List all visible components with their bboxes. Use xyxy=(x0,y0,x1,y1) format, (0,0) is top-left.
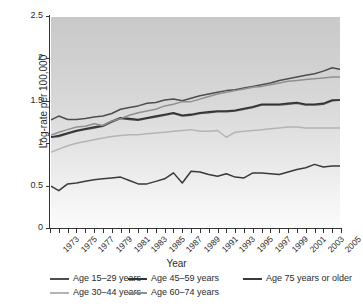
x-tick-label: 1973 xyxy=(61,234,81,254)
series-line xyxy=(50,164,341,190)
y-tick: 1 xyxy=(26,143,50,144)
y-tick: 0 xyxy=(26,228,50,229)
x-tick-label: 1975 xyxy=(78,234,98,254)
y-tick-label: 2 xyxy=(38,52,43,63)
x-tick-mark xyxy=(94,229,95,233)
x-tick-mark xyxy=(209,229,210,233)
legend-item: Age 15–29 years xyxy=(0,272,128,285)
legend-label: Age 45–59 years xyxy=(151,272,219,285)
x-tick-mark xyxy=(341,229,342,233)
legend-item: Age 30–44 years xyxy=(0,286,128,299)
plot-area xyxy=(50,16,341,228)
y-tick-label: 2.5 xyxy=(30,10,43,21)
x-tick-mark xyxy=(156,229,157,233)
x-tick-label: 2001 xyxy=(307,234,327,254)
x-tick-mark xyxy=(129,229,130,233)
x-tick-mark xyxy=(253,229,254,233)
x-tick-label: 1991 xyxy=(219,234,239,254)
y-tick: 2 xyxy=(26,58,50,59)
legend-swatch-icon xyxy=(50,292,69,294)
legend-swatch-icon xyxy=(50,278,69,280)
series-line xyxy=(50,68,341,121)
x-tick-mark xyxy=(315,229,316,233)
x-tick-label: 1993 xyxy=(237,234,257,254)
legend-item: Age 45–59 years xyxy=(128,272,243,285)
y-tick: 1.5 xyxy=(26,101,50,102)
x-tick-mark xyxy=(332,229,333,233)
x-tick-label: 1985 xyxy=(166,234,186,254)
legend-label: Age 60–74 years xyxy=(151,286,219,299)
chart-lines xyxy=(50,16,341,228)
x-tick-label: 1989 xyxy=(202,234,222,254)
legend-row: Age 15–29 yearsAge 45–59 yearsAge 75 yea… xyxy=(0,272,353,286)
x-tick-label: 1995 xyxy=(255,234,275,254)
x-tick-mark xyxy=(103,229,104,233)
x-tick-mark xyxy=(226,229,227,233)
chart-legend: Age 15–29 yearsAge 45–59 yearsAge 75 yea… xyxy=(0,272,353,300)
y-tick: 0.5 xyxy=(26,186,50,187)
y-tick-label: 0 xyxy=(38,222,43,233)
x-tick-mark xyxy=(68,229,69,233)
legend-swatch-icon xyxy=(128,278,147,280)
legend-label: Age 75 years or older xyxy=(266,272,352,285)
legend-swatch-icon xyxy=(128,292,147,294)
series-line xyxy=(50,100,341,137)
x-tick-label: 1999 xyxy=(290,234,310,254)
x-tick-mark xyxy=(112,229,113,233)
x-axis-line xyxy=(49,228,342,229)
x-tick-mark xyxy=(244,229,245,233)
x-tick-label: 1987 xyxy=(184,234,204,254)
y-tick-label: 1.5 xyxy=(30,95,43,106)
series-line xyxy=(50,127,341,152)
x-tick-mark xyxy=(200,229,201,233)
series-line xyxy=(50,100,341,137)
x-tick-label: 1981 xyxy=(131,234,151,254)
x-tick-label: 1977 xyxy=(96,234,116,254)
x-tick-mark xyxy=(235,229,236,233)
x-tick-mark xyxy=(50,229,51,233)
x-tick-mark xyxy=(218,229,219,233)
x-tick-label: 2003 xyxy=(325,234,345,254)
x-tick-label: 1983 xyxy=(149,234,169,254)
x-tick-label: 1997 xyxy=(272,234,292,254)
x-tick-mark xyxy=(270,229,271,233)
x-tick-mark xyxy=(59,229,60,233)
x-tick-mark xyxy=(288,229,289,233)
x-tick-mark xyxy=(76,229,77,233)
x-tick-mark xyxy=(85,229,86,233)
x-tick-mark xyxy=(165,229,166,233)
legend-item: Age 60–74 years xyxy=(128,286,243,299)
x-tick-label: 1979 xyxy=(113,234,133,254)
x-tick-mark xyxy=(306,229,307,233)
x-tick-mark xyxy=(279,229,280,233)
legend-row: Age 30–44 yearsAge 60–74 years xyxy=(0,286,353,300)
x-tick-label: 2005 xyxy=(343,234,363,254)
x-axis-title: Year xyxy=(0,258,353,269)
x-tick-mark xyxy=(138,229,139,233)
x-tick-mark xyxy=(297,229,298,233)
x-tick-mark xyxy=(182,229,183,233)
x-tick-mark xyxy=(191,229,192,233)
x-tick-mark xyxy=(173,229,174,233)
legend-swatch-icon xyxy=(243,278,262,280)
y-tick: 2.5 xyxy=(26,16,50,17)
x-tick-mark xyxy=(121,229,122,233)
x-tick-mark xyxy=(323,229,324,233)
x-tick-mark xyxy=(262,229,263,233)
x-tick-mark xyxy=(147,229,148,233)
legend-item: Age 75 years or older xyxy=(243,272,353,285)
y-tick-label: 0.5 xyxy=(30,180,43,191)
y-tick-label: 1 xyxy=(38,137,43,148)
